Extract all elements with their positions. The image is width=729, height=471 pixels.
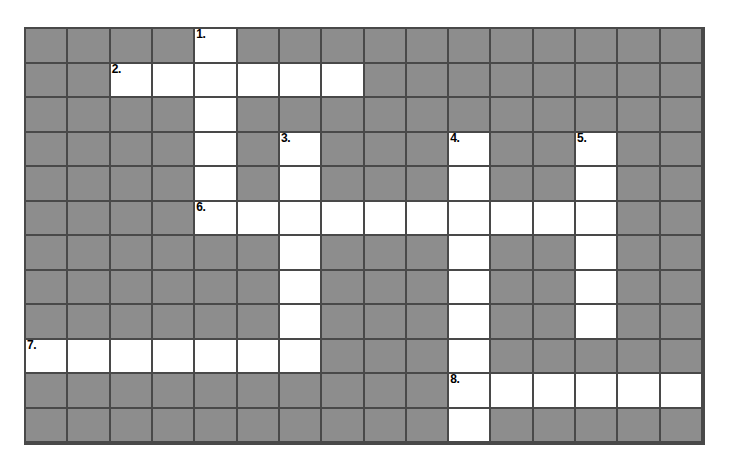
crossword-cell-block [322,409,364,444]
crossword-cell-block [153,29,195,64]
crossword-cell-open[interactable] [576,305,618,340]
crossword-cell-open[interactable] [280,167,322,202]
crossword-cell-open[interactable] [576,167,618,202]
crossword-cell-open[interactable] [280,271,322,306]
crossword-cell-block [280,409,322,444]
crossword-cell-open[interactable] [195,133,237,168]
crossword-cell-open[interactable] [111,340,153,375]
crossword-cell-open[interactable] [195,98,237,133]
crossword-cell-open[interactable]: 2. [111,64,153,99]
crossword-cell-block [449,98,491,133]
crossword-cell-block [491,64,533,99]
crossword-cell-block [153,98,195,133]
crossword-cell-block [534,271,576,306]
crossword-cell-open[interactable] [491,202,533,237]
crossword-cell-open[interactable] [576,236,618,271]
crossword-cell-open[interactable]: 8. [449,374,491,409]
crossword-cell-block [491,305,533,340]
crossword-cell-block [322,98,364,133]
crossword-cell-open[interactable] [491,374,533,409]
crossword-cell-open[interactable] [153,64,195,99]
crossword-cell-open[interactable] [618,374,660,409]
crossword-cell-open[interactable] [576,202,618,237]
crossword-cell-open[interactable]: 7. [26,340,68,375]
crossword-cell-block [661,409,703,444]
crossword-cell-block [618,236,660,271]
crossword-cell-block [68,202,110,237]
crossword-cell-block [661,236,703,271]
crossword-cell-open[interactable] [534,202,576,237]
crossword-cell-open[interactable] [195,340,237,375]
crossword-cell-block [576,64,618,99]
crossword-cell-open[interactable] [576,374,618,409]
crossword-cell-open[interactable] [322,64,364,99]
crossword-cell-open[interactable] [238,64,280,99]
crossword-cell-block [365,29,407,64]
crossword-cell-open[interactable] [195,64,237,99]
crossword-cell-open[interactable] [449,202,491,237]
crossword-cell-open[interactable] [449,167,491,202]
crossword-cell-block [111,271,153,306]
crossword-cell-open[interactable] [449,305,491,340]
crossword-cell-open[interactable] [449,236,491,271]
crossword-cell-open[interactable]: 4. [449,133,491,168]
crossword-cell-block [68,29,110,64]
crossword-cell-open[interactable]: 3. [280,133,322,168]
crossword-cell-block [491,29,533,64]
crossword-cell-block [407,64,449,99]
crossword-cell-block [618,271,660,306]
clue-number: 3. [281,133,290,145]
clue-number: 5. [577,133,586,145]
crossword-cell-block [68,271,110,306]
crossword-cell-open[interactable] [195,167,237,202]
crossword-cell-open[interactable]: 6. [195,202,237,237]
crossword-cell-block [407,133,449,168]
crossword-cell-block [26,409,68,444]
crossword-cell-block [153,167,195,202]
crossword-cell-open[interactable] [576,271,618,306]
crossword-cell-block [407,29,449,64]
crossword-cell-open[interactable] [238,340,280,375]
crossword-cell-open[interactable]: 1. [195,29,237,64]
crossword-cell-block [26,29,68,64]
crossword-cell-block [238,236,280,271]
crossword-cell-open[interactable] [661,374,703,409]
crossword-cell-block [238,409,280,444]
crossword-cell-block [449,64,491,99]
crossword-cell-block [111,98,153,133]
crossword-cell-block [68,305,110,340]
crossword-cell-block [661,133,703,168]
crossword-cell-block [26,374,68,409]
crossword-cell-block [534,98,576,133]
clue-number: 2. [112,64,121,76]
crossword-cell-block [576,340,618,375]
crossword-cell-open[interactable] [365,202,407,237]
crossword-cell-block [68,409,110,444]
crossword-cell-open[interactable] [153,340,195,375]
crossword-cell-block [238,98,280,133]
crossword-cell-block [618,98,660,133]
crossword-cell-block [111,29,153,64]
crossword-grid[interactable]: 1.2.3.4.5.6.7.8. [24,27,705,445]
crossword-cell-open[interactable] [280,236,322,271]
crossword-cell-open[interactable] [322,202,364,237]
crossword-cell-open[interactable] [407,202,449,237]
crossword-cell-open[interactable] [449,409,491,444]
crossword-cell-open[interactable] [238,202,280,237]
crossword-cell-block [26,133,68,168]
crossword-cell-open[interactable] [280,64,322,99]
crossword-cell-open[interactable] [534,374,576,409]
crossword-cell-open[interactable] [280,305,322,340]
crossword-cell-block [618,409,660,444]
crossword-cell-open[interactable] [449,340,491,375]
crossword-cell-open[interactable] [68,340,110,375]
crossword-cell-block [238,133,280,168]
crossword-cell-block [491,340,533,375]
crossword-cell-block [576,29,618,64]
crossword-cell-open[interactable]: 5. [576,133,618,168]
crossword-cell-block [68,98,110,133]
crossword-cell-block [618,167,660,202]
crossword-cell-open[interactable] [280,340,322,375]
crossword-cell-open[interactable] [449,271,491,306]
crossword-cell-open[interactable] [280,202,322,237]
